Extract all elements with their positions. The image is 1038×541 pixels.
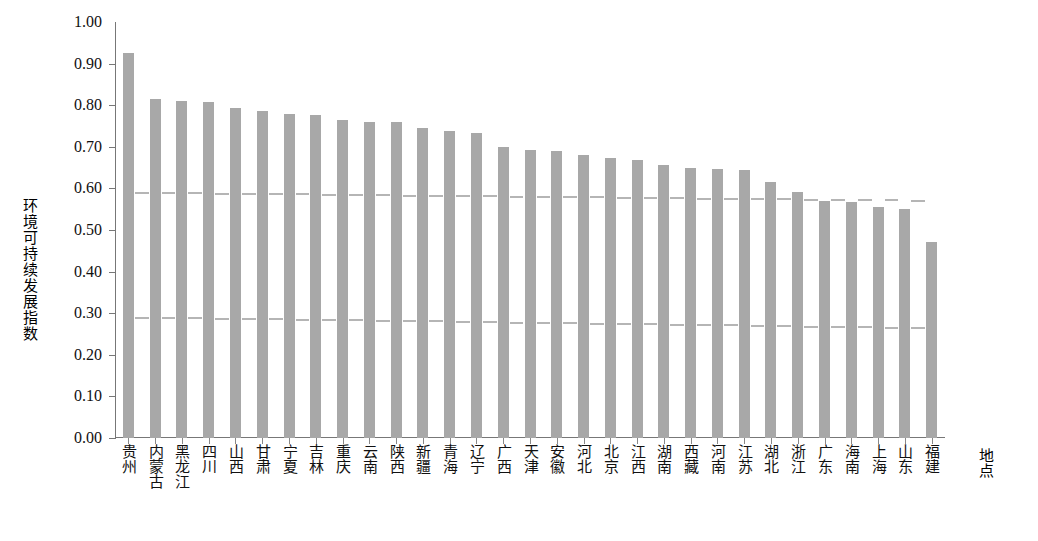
- reference-line-segment: [617, 323, 631, 325]
- bar: [846, 202, 857, 438]
- y-axis-tick-label: 0.10: [74, 387, 102, 405]
- reference-line-segment: [697, 198, 711, 200]
- reference-line-segment: [858, 199, 872, 201]
- x-axis-tick-label: 四川: [201, 444, 216, 474]
- bar: [364, 122, 375, 438]
- reference-line-segment: [537, 322, 551, 324]
- reference-line-segment: [617, 197, 631, 199]
- x-axis-tick-label: 山西: [227, 444, 242, 474]
- x-axis-tick-label: 贵州: [120, 444, 135, 474]
- bar: [873, 207, 884, 438]
- x-axis-tick-label: 海南: [843, 444, 858, 474]
- reference-line-segment: [162, 317, 176, 319]
- reference-line-segment: [590, 196, 604, 198]
- x-axis-tick-label: 甘肃: [254, 444, 269, 474]
- y-axis-tick-label: 0.60: [74, 179, 102, 197]
- reference-line-segment: [751, 325, 765, 327]
- x-axis-tick-label: 广西: [495, 444, 510, 474]
- x-axis-tick-label: 山东: [897, 444, 912, 474]
- reference-line-segment: [188, 317, 202, 319]
- bar: [176, 101, 187, 438]
- bar: [765, 182, 776, 438]
- reference-line-segment: [242, 318, 256, 320]
- y-axis-tick-label: 0.70: [74, 138, 102, 156]
- bar: [632, 160, 643, 438]
- bar: [150, 99, 161, 438]
- y-axis-tick-label: 0.40: [74, 263, 102, 281]
- reference-line-segment: [724, 198, 738, 200]
- y-axis-tick-label: 0.50: [74, 221, 102, 239]
- bar: [257, 111, 268, 438]
- bar: [525, 150, 536, 438]
- reference-line-segment: [296, 193, 310, 195]
- reference-line-segment: [322, 194, 336, 196]
- x-axis-tick-label: 吉林: [308, 444, 323, 474]
- reference-line-segment: [911, 327, 925, 329]
- bar: [417, 128, 428, 438]
- reference-line-segment: [162, 192, 176, 194]
- reference-line-segment: [777, 325, 791, 327]
- reference-line-segment: [831, 199, 845, 201]
- reference-line-segment: [188, 192, 202, 194]
- reference-line-segment: [697, 324, 711, 326]
- x-axis-tick-label: 湖北: [763, 444, 778, 474]
- bars-layer: [115, 22, 945, 438]
- reference-line-segment: [376, 320, 390, 322]
- bar: [926, 242, 937, 438]
- bar: [578, 155, 589, 438]
- reference-line-segment: [215, 193, 229, 195]
- y-axis-title: 环境可持续发展指数: [18, 120, 42, 420]
- reference-line-segment: [403, 320, 417, 322]
- reference-line-segment: [349, 194, 363, 196]
- x-axis-tick-label: 内蒙古: [147, 444, 162, 489]
- bar: [819, 201, 830, 438]
- y-axis-tick-labels: 1.000.900.800.700.600.500.400.300.200.10…: [52, 0, 108, 541]
- y-axis-tick-label: 0.00: [74, 429, 102, 447]
- x-axis-tick-label: 北京: [602, 444, 617, 474]
- reference-line-segment: [483, 195, 497, 197]
- x-axis-tick-label: 浙江: [790, 444, 805, 474]
- bar: [792, 192, 803, 438]
- reference-line-segment: [429, 195, 443, 197]
- bar: [685, 168, 696, 438]
- x-axis-tick-label: 天津: [522, 444, 537, 474]
- bar: [203, 102, 214, 438]
- bar: [498, 147, 509, 438]
- reference-line-segment: [563, 322, 577, 324]
- x-axis-tick-label: 湖南: [656, 444, 671, 474]
- bar: [284, 114, 295, 438]
- x-axis-tick-label: 辽宁: [468, 444, 483, 474]
- bar: [739, 170, 750, 438]
- reference-line-segment: [429, 320, 443, 322]
- bar: [605, 158, 616, 438]
- reference-line-segment: [670, 197, 684, 199]
- reference-line-segment: [751, 198, 765, 200]
- y-axis-tick-label: 0.90: [74, 55, 102, 73]
- reference-line-segment: [349, 319, 363, 321]
- reference-line-segment: [269, 193, 283, 195]
- x-axis-tick-label: 西藏: [683, 444, 698, 474]
- x-axis-tick-label: 青海: [442, 444, 457, 474]
- reference-line-segment: [510, 322, 524, 324]
- reference-line-segment: [537, 196, 551, 198]
- reference-line-segment: [483, 321, 497, 323]
- reference-line-segment: [804, 199, 818, 201]
- reference-line-segment: [885, 199, 899, 201]
- reference-line-segment: [831, 326, 845, 328]
- x-axis-tick-label: 重庆: [335, 444, 350, 474]
- reference-line-segment: [456, 195, 470, 197]
- plot-area: [115, 22, 945, 438]
- reference-line-segment: [296, 319, 310, 321]
- x-axis-tick-label: 福建: [924, 444, 939, 474]
- x-axis-tick-label: 新疆: [415, 444, 430, 474]
- reference-line-segment: [724, 324, 738, 326]
- x-axis-title: 地点: [975, 448, 996, 478]
- reference-line-segment: [911, 200, 925, 202]
- reference-line-segment: [644, 323, 658, 325]
- reference-line-segment: [215, 318, 229, 320]
- x-axis-tick-label: 宁夏: [281, 444, 296, 474]
- x-axis-tick-label: 江西: [629, 444, 644, 474]
- x-axis-tick-label: 陕西: [388, 444, 403, 474]
- reference-line-segment: [858, 326, 872, 328]
- reference-line-segment: [456, 321, 470, 323]
